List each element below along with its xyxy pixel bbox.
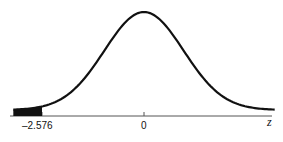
- tick-label-zero: 0: [141, 120, 147, 131]
- density-curve: [13, 12, 274, 110]
- axis-variable-label: z: [267, 115, 272, 130]
- tick-label-neg: –2.576: [22, 120, 53, 131]
